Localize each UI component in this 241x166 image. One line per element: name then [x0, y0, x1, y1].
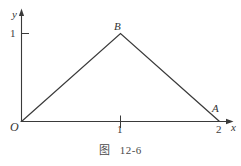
figure-caption: 图12-6: [0, 141, 241, 157]
x-tick-label-2: 2: [216, 124, 222, 135]
y-axis-arrow-icon: [19, 9, 24, 17]
origin-label: O: [10, 121, 19, 133]
triangle-shape: [22, 34, 220, 122]
y-tick-label-1: 1: [10, 28, 16, 39]
figure-container: y x O B A 1 1 2 图12-6: [0, 0, 241, 166]
figure-caption-label: 图: [99, 144, 111, 156]
x-tick-label-1: 1: [117, 124, 123, 135]
y-axis-label: y: [12, 9, 17, 20]
x-axis-label: x: [231, 122, 236, 133]
figure-caption-number: 12-6: [120, 144, 142, 156]
point-b-label: B: [114, 21, 121, 32]
point-a-label: A: [212, 103, 219, 114]
